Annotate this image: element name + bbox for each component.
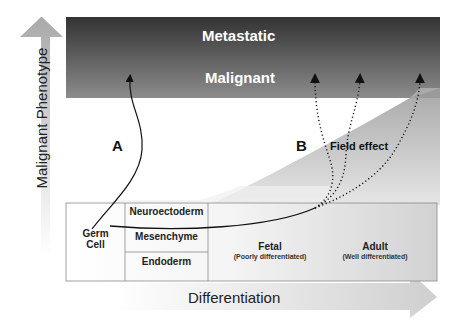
mesenchyme-label: Mesenchyme [125, 231, 208, 242]
germ-cell-label: Germ Cell [66, 228, 125, 250]
adult-sub-label: (Well differentiated) [330, 253, 420, 260]
neuroectoderm-label: Neuroectoderm [125, 206, 208, 217]
y-axis-label: Malignant Phenotype [33, 49, 50, 189]
field-effect-label: Field effect [330, 140, 388, 152]
x-axis-label: Differentiation [188, 289, 280, 306]
metastatic-label: Metastatic [202, 27, 275, 44]
diagram-canvas [0, 0, 461, 320]
fetal-sub-label: (Poorly differentiated) [225, 253, 315, 260]
germ-cell-line1: Germ [66, 228, 125, 239]
endoderm-label: Endoderm [125, 256, 208, 267]
malignant-label: Malignant [205, 69, 275, 86]
pathway-a-label: A [112, 137, 123, 154]
pathway-b-label: B [296, 137, 307, 154]
adult-label: Adult [335, 241, 415, 252]
germ-cell-line2: Cell [66, 239, 125, 250]
fetal-label: Fetal [230, 241, 310, 252]
